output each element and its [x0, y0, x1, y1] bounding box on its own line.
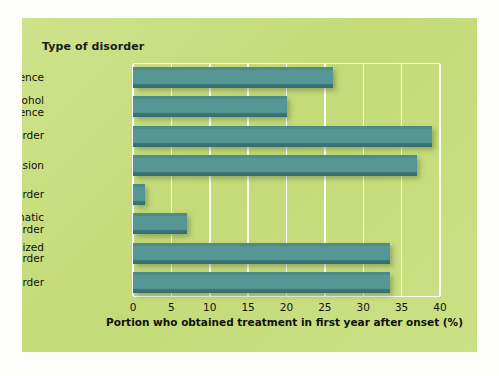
bar-row: Major depression [133, 151, 440, 180]
bar-row: Panic disorder [133, 268, 440, 297]
category-label: Alcoholdependence [22, 95, 44, 118]
x-tick-label: 15 [241, 301, 254, 313]
category-label-line: Phobic disorder [22, 189, 44, 201]
bar[interactable] [133, 213, 187, 234]
bar[interactable] [133, 67, 333, 88]
bar[interactable] [133, 272, 390, 293]
bar[interactable] [133, 155, 417, 176]
bar[interactable] [133, 96, 287, 117]
x-tick-label: 25 [318, 301, 331, 313]
category-label-line: Drug dependence [22, 72, 44, 84]
chart-figure: Type of disorder Drug dependenceAlcohold… [0, 0, 499, 376]
x-axis-ticks: 0510152025303540 [133, 301, 440, 315]
x-tick-label: 30 [357, 301, 370, 313]
category-label: Major depression [22, 160, 44, 172]
category-label: Drug dependence [22, 72, 44, 84]
category-label: Panic disorder [22, 277, 44, 289]
bar-row: Drug dependence [133, 63, 440, 92]
bar-row: Phobic disorder [133, 180, 440, 209]
category-label: Posttraumaticstress disorder [22, 212, 44, 235]
x-tick-label: 5 [168, 301, 175, 313]
x-axis-title: Portion who obtained treatment in first … [22, 316, 477, 328]
x-tick-label: 10 [203, 301, 216, 313]
category-label-line: stress disorder [22, 224, 44, 236]
x-tick-label: 20 [280, 301, 293, 313]
chart-panel: Type of disorder Drug dependenceAlcohold… [22, 18, 477, 352]
panel-title: Type of disorder [42, 40, 144, 53]
bar-row: Bipolar disorder [133, 122, 440, 151]
x-tick-label: 35 [395, 301, 408, 313]
category-label: Generalizedanxiety disorder [22, 242, 44, 265]
x-tick-label: 40 [433, 301, 446, 313]
category-label-line: dependence [22, 107, 44, 119]
bar-row: Posttraumaticstress disorder [133, 209, 440, 238]
bar[interactable] [133, 243, 390, 264]
x-tick-label: 0 [130, 301, 137, 313]
bar-row: Alcoholdependence [133, 92, 440, 121]
category-label-line: Bipolar disorder [22, 130, 44, 142]
category-label: Bipolar disorder [22, 130, 44, 142]
bar[interactable] [133, 184, 145, 205]
category-label: Phobic disorder [22, 189, 44, 201]
bar-row: Generalizedanxiety disorder [133, 239, 440, 268]
bar[interactable] [133, 126, 432, 147]
category-label-line: Major depression [22, 160, 44, 172]
category-label-line: anxiety disorder [22, 253, 44, 265]
bars-group: Drug dependenceAlcoholdependenceBipolar … [133, 63, 440, 297]
category-label-line: Panic disorder [22, 277, 44, 289]
